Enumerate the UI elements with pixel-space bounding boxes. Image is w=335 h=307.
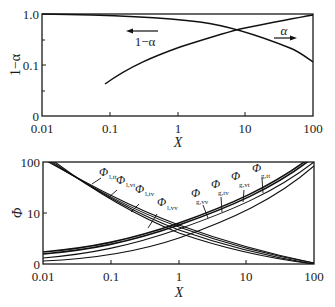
annotation-alpha: α xyxy=(274,23,297,41)
bottom-x-tick-0: 0.01 xyxy=(32,269,55,284)
top-x-tick-1: 0.1 xyxy=(102,121,118,136)
bottom-y-tick-100: 100 xyxy=(21,155,41,170)
svg-text:g,vv: g,vv xyxy=(196,198,209,206)
svg-text:Φ: Φ xyxy=(252,161,261,175)
bottom-y-tick-10: 10 xyxy=(27,206,40,221)
svg-text:g,tv: g,tv xyxy=(218,189,229,197)
bottom-x-tick-1: 0.1 xyxy=(103,269,119,284)
bottom-x-tick-2: 1 xyxy=(176,269,183,284)
top-x-tick-0: 0.01 xyxy=(31,121,54,136)
svg-text:α: α xyxy=(281,23,289,38)
label-phi-g-vv: Φ g,vv xyxy=(191,186,209,206)
top-plot-frame xyxy=(42,14,313,116)
svg-text:g,tt: g,tt xyxy=(261,172,270,180)
bottom-x-tick-4: 100 xyxy=(304,269,324,284)
top-x-axis-label: X xyxy=(173,135,183,150)
top-x-tick-2: 1 xyxy=(175,121,182,136)
top-panel: 1.0 0.1 0 0.01 0.1 1 10 100 X 1−α 1−α α xyxy=(8,7,323,150)
chart: 1.0 0.1 0 0.01 0.1 1 10 100 X 1−α 1−α α xyxy=(0,0,335,307)
svg-text:g,vt: g,vt xyxy=(239,181,250,189)
curve-phi-g-vt xyxy=(43,162,314,258)
svg-text:Φ: Φ xyxy=(157,195,166,209)
svg-text:l,tv: l,tv xyxy=(145,190,155,198)
svg-text:Φ: Φ xyxy=(135,182,144,196)
bottom-panel: 100 10 0 0.01 0.1 1 10 100 X Φ xyxy=(10,155,324,300)
svg-text:Φ: Φ xyxy=(99,165,108,179)
svg-text:1−α: 1−α xyxy=(135,34,156,49)
label-phi-g-tv: Φ g,tv xyxy=(211,177,229,197)
svg-text:l,vt: l,vt xyxy=(126,181,135,189)
bottom-y-axis-label: Φ xyxy=(10,207,25,218)
top-y-tick-01: 0.1 xyxy=(23,58,39,73)
label-phi-g-vt: Φ g,vt xyxy=(231,169,250,189)
top-x-tick-4: 100 xyxy=(303,121,323,136)
bottom-x-tick-3: 10 xyxy=(240,269,253,284)
top-y-axis-label: 1−α xyxy=(8,53,23,76)
curve-phi-l-vt xyxy=(47,160,314,263)
label-phi-g-tt: Φ g,tt xyxy=(252,161,270,180)
label-phi-l-vt: Φ l,vt xyxy=(116,173,135,189)
curve-phi-l-vv xyxy=(55,162,314,264)
top-x-tick-3: 10 xyxy=(239,121,252,136)
svg-text:l,vv: l,vv xyxy=(167,204,178,212)
curve-one-minus-alpha xyxy=(42,14,313,62)
bottom-x-axis-label: X xyxy=(174,285,184,300)
annotation-one-minus-alpha: 1−α xyxy=(126,29,158,50)
label-phi-l-vv: Φ l,vv xyxy=(157,195,178,212)
bottom-curves xyxy=(43,159,314,264)
svg-text:Φ: Φ xyxy=(116,173,125,187)
label-phi-l-tv: Φ l,tv xyxy=(135,182,155,198)
label-phi-l-tt: Φ l,tt xyxy=(99,165,117,181)
top-y-tick-1: 1.0 xyxy=(23,7,39,22)
